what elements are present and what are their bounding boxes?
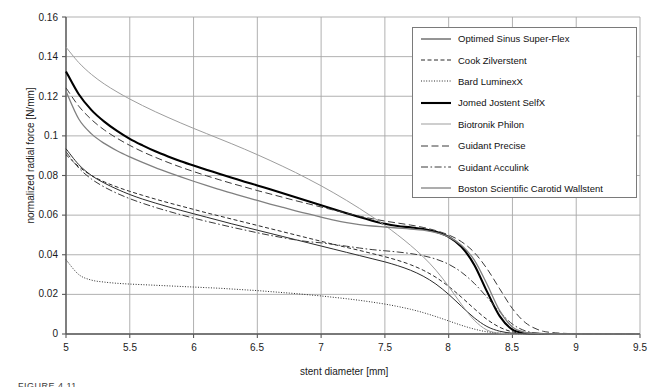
legend-item[interactable]: Guidant Acculink <box>413 156 636 177</box>
legend-item[interactable]: Jomed Jostent SelfX <box>413 92 636 113</box>
legend-item-label: Boston Scientific Carotid Wallstent <box>458 183 603 194</box>
legend-item-label: Optimed Sinus Super-Flex <box>458 33 569 44</box>
legend-item-label: Bard LuminexX <box>458 76 523 87</box>
legend-item-label: Cook Zilverstent <box>458 55 527 66</box>
series-line-2 <box>66 260 640 334</box>
legend-item[interactable]: Boston Scientific Carotid Wallstent <box>413 178 636 199</box>
legend-item[interactable]: Optimed Sinus Super-Flex <box>413 28 636 49</box>
legend-line-sample-icon <box>421 161 451 173</box>
legend-line-sample-icon <box>421 118 451 130</box>
legend-item-label: Biotronik Philon <box>458 119 524 130</box>
legend-line-sample-icon <box>421 97 451 109</box>
legend-line-sample-icon <box>421 140 451 152</box>
legend-line-sample-icon <box>421 182 451 194</box>
legend-item[interactable]: Cook Zilverstent <box>413 49 636 70</box>
legend-item-label: Jomed Jostent SelfX <box>458 97 545 108</box>
legend-item[interactable]: Bard LuminexX <box>413 71 636 92</box>
footer-fragment: FIGURE 4.11 <box>18 381 88 387</box>
legend: Optimed Sinus Super-FlexCook Zilverstent… <box>412 27 637 198</box>
legend-line-sample-icon <box>421 75 451 87</box>
legend-item-label: Guidant Precise <box>458 140 526 151</box>
legend-line-sample-icon <box>421 33 451 45</box>
chart-figure: normalized radial force [N/mm] stent dia… <box>0 0 663 388</box>
legend-item-label: Guidant Acculink <box>458 162 529 173</box>
legend-item[interactable]: Guidant Precise <box>413 135 636 156</box>
legend-line-sample-icon <box>421 54 451 66</box>
legend-item[interactable]: Biotronik Philon <box>413 114 636 135</box>
